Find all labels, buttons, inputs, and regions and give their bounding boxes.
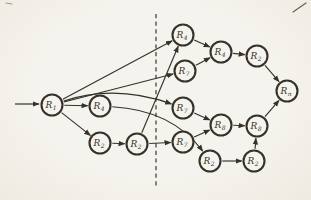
node-n2: R4 — [90, 96, 111, 117]
edge-n7-n11 — [194, 113, 210, 120]
edge-n5-n10 — [194, 40, 210, 47]
node-n1: R1 — [42, 95, 63, 116]
edge-n10-n12 — [233, 53, 245, 54]
node-n14: R2 — [244, 151, 265, 172]
node-n10: R4 — [211, 42, 232, 63]
node-n4: R2 — [127, 134, 148, 155]
edge-n1-n7 — [64, 93, 172, 104]
edge-n14-n13 — [255, 138, 256, 148]
node-n9: R2 — [200, 151, 221, 172]
edge-n1-n3 — [62, 113, 91, 136]
artifacts-layer — [6, 3, 306, 12]
scanned-figure: R1R4R2R2R4R7R7R7R2R4R8R2R8R2Rn — [0, 0, 311, 200]
node-n8: R7 — [173, 132, 194, 153]
node-n15: Rn — [277, 81, 298, 102]
edge-n8-n11 — [194, 130, 210, 137]
edge-n4-n8 — [149, 143, 170, 144]
node-n5: R4 — [173, 25, 194, 46]
node-n3: R2 — [90, 133, 111, 154]
network-diagram: R1R4R2R2R4R7R7R7R2R4R8R2R8R2Rn — [0, 0, 311, 200]
edge-n13-n15 — [265, 100, 279, 116]
node-n12: R2 — [247, 46, 268, 67]
node-n6: R7 — [175, 61, 196, 82]
scan-mark-2 — [6, 3, 12, 4]
node-n7: R7 — [173, 98, 194, 119]
edge-n4-n5 — [142, 46, 178, 132]
edge-n12-n15 — [265, 65, 279, 81]
node-n13: R8 — [247, 116, 268, 137]
scan-mark-1 — [293, 3, 306, 12]
node-n11: R8 — [211, 115, 232, 136]
edge-n6-n10 — [196, 58, 210, 66]
